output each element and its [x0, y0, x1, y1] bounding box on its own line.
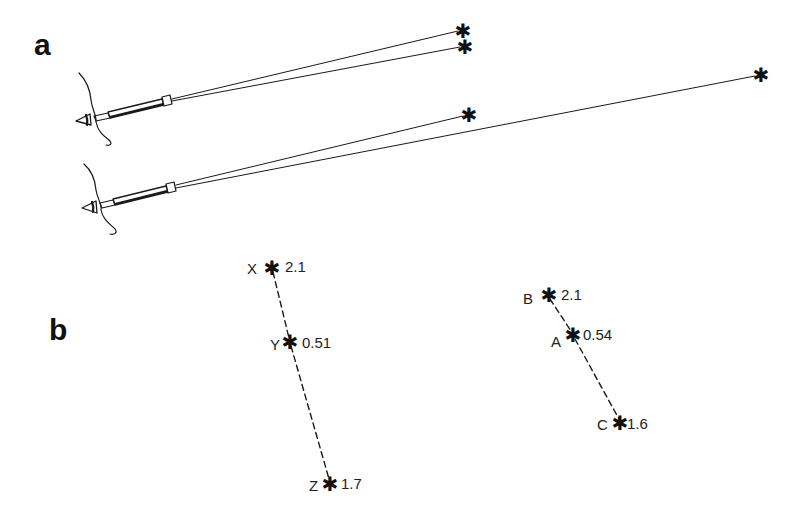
point-value-a: 0.54 — [583, 327, 612, 342]
face-profile-icon — [79, 73, 111, 145]
lower-observer — [82, 76, 755, 234]
upper-observer — [76, 31, 460, 145]
star-icon: ✱ — [457, 37, 474, 57]
star-icon: ✱ — [282, 332, 299, 352]
diagram-line-art — [0, 0, 805, 519]
dashed-connectors — [273, 272, 619, 479]
telescope-icon — [100, 182, 176, 208]
star-icon: ✱ — [264, 258, 281, 278]
point-value-c: 1.6 — [627, 416, 648, 431]
point-name-b: B — [523, 291, 533, 306]
eye-icon — [82, 201, 97, 213]
point-name-x: X — [247, 261, 257, 276]
point-value-z: 1.7 — [341, 476, 362, 491]
star-icon: ✱ — [612, 413, 629, 433]
point-name-a: A — [551, 334, 561, 349]
point-name-z: Z — [309, 478, 318, 493]
star-icon: ✱ — [461, 105, 478, 125]
point-name-y: Y — [270, 337, 280, 352]
star-icon: ✱ — [565, 325, 582, 345]
star-icon: ✱ — [322, 474, 339, 494]
eye-icon — [76, 114, 91, 125]
point-value-y: 0.51 — [302, 335, 331, 350]
point-value-x: 2.1 — [285, 259, 306, 274]
star-icon: ✱ — [753, 65, 770, 85]
point-name-c: C — [597, 417, 608, 432]
point-value-b: 2.1 — [561, 287, 582, 302]
telescope-icon — [94, 95, 172, 121]
star-icon: ✱ — [541, 285, 558, 305]
face-profile-icon — [84, 164, 116, 234]
